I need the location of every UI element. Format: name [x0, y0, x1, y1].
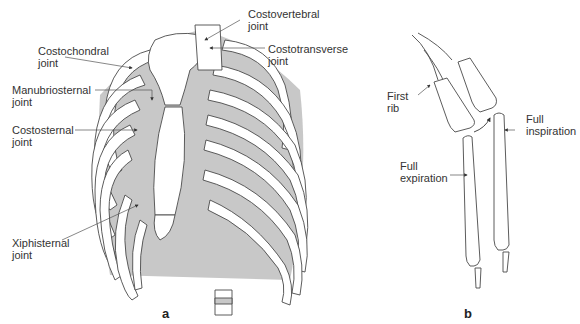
- panel-letter-b: b: [464, 306, 472, 321]
- rib-cage-panel-a: [92, 25, 308, 315]
- label-manubriosternal-joint: Manubriosternal joint: [12, 84, 91, 108]
- label-costotransverse-joint: Costotransverse joint: [268, 43, 348, 67]
- label-full-expiration: Full expiration: [400, 160, 448, 184]
- label-full-inspiration: Full inspiration: [526, 113, 576, 137]
- label-costochondral-joint: Costochondral joint: [38, 45, 109, 69]
- label-costovertebral-joint: Costovertebral joint: [248, 8, 320, 32]
- panel-letter-a: a: [162, 306, 169, 321]
- label-first-rib: First rib: [387, 90, 408, 114]
- label-costosternal-joint: Costosternal joint: [12, 124, 74, 148]
- label-xiphisternal-joint: Xiphisternal joint: [12, 237, 69, 261]
